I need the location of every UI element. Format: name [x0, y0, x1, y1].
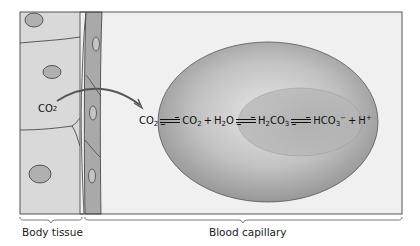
- nucleus: [43, 66, 61, 79]
- eq-plus: +: [204, 115, 212, 126]
- equilibrium-arrow-icon: [236, 117, 256, 125]
- capillary-wall: [84, 12, 102, 214]
- eq-h-ion: H+: [358, 115, 371, 126]
- bicarbonate-equation: CO2 CO2 + H2O H2CO3 HCO3− + H+: [139, 115, 372, 126]
- equilibrium-arrow-icon: [160, 117, 180, 125]
- wall-nucleus: [90, 106, 97, 120]
- label-body-tissue: Body tissue: [22, 226, 83, 238]
- eq-plus: +: [348, 115, 356, 126]
- nucleus: [29, 165, 51, 183]
- wall-nucleus: [93, 37, 100, 51]
- eq-h2co3: H2CO3: [258, 115, 289, 126]
- brace-body-tissue: [20, 217, 82, 223]
- eq-co2: CO2: [139, 115, 158, 126]
- eq-h2o: H2O: [214, 115, 234, 126]
- eq-co2: CO2: [182, 115, 201, 126]
- brace-blood-capillary: [85, 217, 402, 223]
- nucleus: [25, 13, 43, 27]
- wall-nucleus: [89, 169, 96, 183]
- co2-tissue-label: CO2: [38, 103, 57, 114]
- label-blood-capillary: Blood capillary: [209, 226, 287, 238]
- eq-hco3: HCO3−: [313, 115, 346, 126]
- equilibrium-arrow-icon: [291, 117, 311, 125]
